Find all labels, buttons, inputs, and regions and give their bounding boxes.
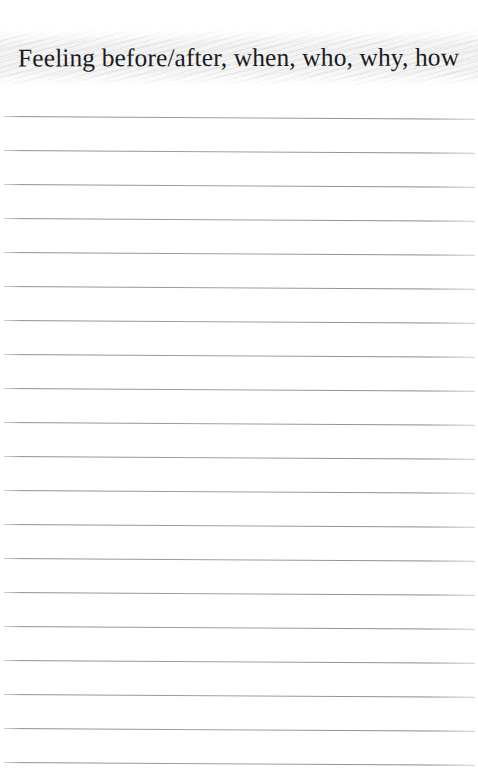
ruled-line: [4, 150, 475, 154]
ruled-line: [4, 728, 475, 732]
ruled-line: [4, 762, 475, 766]
ruled-line: [4, 660, 475, 664]
ruled-line: [4, 626, 475, 630]
page-title: Feeling before/after, when, who, why, ho…: [18, 44, 459, 73]
ruled-line: [4, 184, 475, 188]
ruled-line: [4, 422, 475, 426]
ruled-line: [4, 252, 475, 256]
ruled-line: [4, 116, 475, 120]
ruled-lines-group: [0, 0, 478, 779]
heading-area: Feeling before/after, when, who, why, ho…: [0, 36, 478, 80]
ruled-line: [4, 592, 475, 596]
ruled-line: [4, 524, 475, 528]
ruled-line: [4, 320, 475, 324]
ruled-line: [4, 694, 475, 698]
ruled-line: [4, 456, 475, 460]
ruled-line: [4, 218, 475, 222]
ruled-line: [4, 558, 475, 562]
ruled-line: [4, 490, 475, 494]
ruled-line: [4, 388, 475, 392]
ruled-line: [4, 354, 475, 358]
ruled-line: [4, 286, 475, 290]
journal-page: Feeling before/after, when, who, why, ho…: [0, 0, 478, 779]
